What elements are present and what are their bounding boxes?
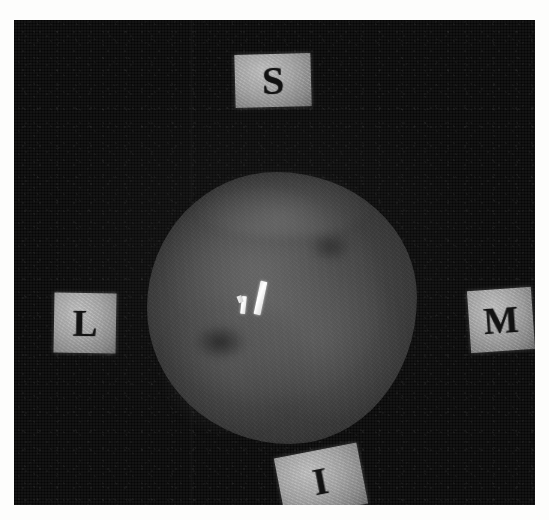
tissue-specimen [147,172,417,444]
orientation-marker-superior-label: S [261,57,284,105]
specimen-dark-region-right [309,232,352,262]
specimen-dark-region-left [193,324,247,359]
orientation-marker-inferior-label: I [309,458,333,504]
page-background: S L M I [0,0,549,520]
specimen-radiograph-image: S L M I [14,20,535,505]
orientation-marker-superior: S [234,53,311,108]
specimen-rim-highlight [190,167,374,238]
orientation-marker-lateral: L [53,292,116,353]
orientation-marker-medial-label: M [482,297,520,342]
orientation-marker-inferior: I [274,443,368,505]
orientation-marker-medial: M [467,287,535,353]
orientation-marker-lateral-label: L [72,301,97,344]
